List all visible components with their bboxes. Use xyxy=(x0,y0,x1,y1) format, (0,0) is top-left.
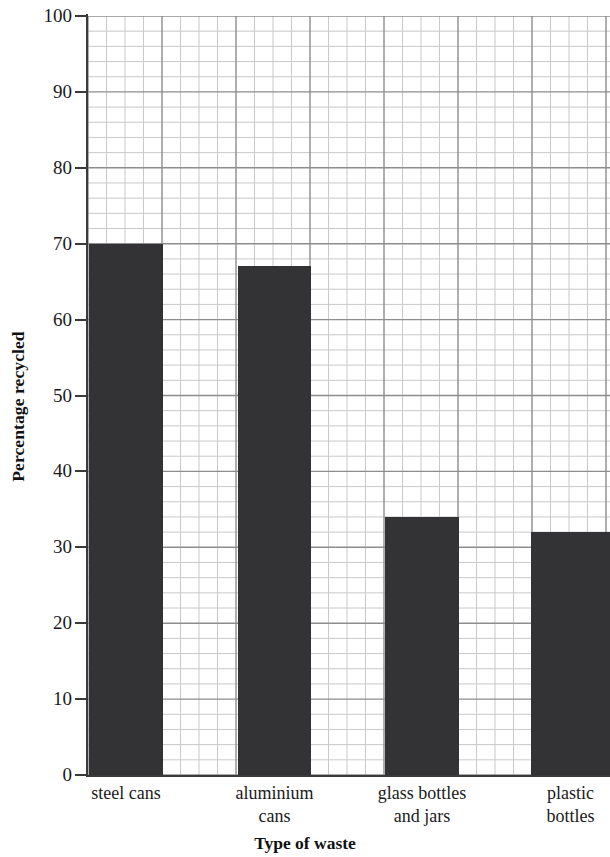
x-category-label-line: bottles xyxy=(481,805,610,828)
x-category-label: plasticbottles xyxy=(481,782,610,828)
y-tick-label: 40 xyxy=(28,461,72,480)
chart-title xyxy=(0,0,610,6)
y-tick-mark xyxy=(75,470,86,472)
y-tick-label: 20 xyxy=(28,613,72,632)
bar-glass-bottles-and-jars xyxy=(385,517,459,775)
y-tick-mark xyxy=(75,15,86,17)
y-tick-mark xyxy=(75,167,86,169)
x-axis-title: Type of waste xyxy=(0,833,610,854)
y-tick-mark xyxy=(75,319,86,321)
y-tick-label: 60 xyxy=(28,310,72,329)
y-axis-line xyxy=(86,14,88,777)
plot-area xyxy=(88,16,610,775)
bar-aluminium-cans xyxy=(238,266,311,775)
y-tick-label: 10 xyxy=(28,689,72,708)
y-tick-mark xyxy=(75,243,86,245)
y-tick-mark xyxy=(75,774,86,776)
y-tick-label: 70 xyxy=(28,234,72,253)
bar-steel-cans xyxy=(89,244,163,775)
bar-plastic-bottles xyxy=(531,532,610,775)
x-axis-line xyxy=(86,775,610,777)
y-axis-title: Percentage recycled xyxy=(8,267,29,547)
y-tick-mark xyxy=(75,91,86,93)
bar-chart: 1009080706050403020100 Percentage recycl… xyxy=(0,0,610,857)
y-tick-label: 80 xyxy=(28,158,72,177)
y-tick-mark xyxy=(75,546,86,548)
y-tick-label: 50 xyxy=(28,386,72,405)
y-tick-mark xyxy=(75,622,86,624)
y-tick-label: 30 xyxy=(28,537,72,556)
y-tick-label: 90 xyxy=(28,82,72,101)
y-tick-mark xyxy=(75,395,86,397)
x-category-label-line: plastic xyxy=(481,782,610,805)
y-tick-label: 100 xyxy=(28,6,72,25)
y-tick-mark xyxy=(75,698,86,700)
